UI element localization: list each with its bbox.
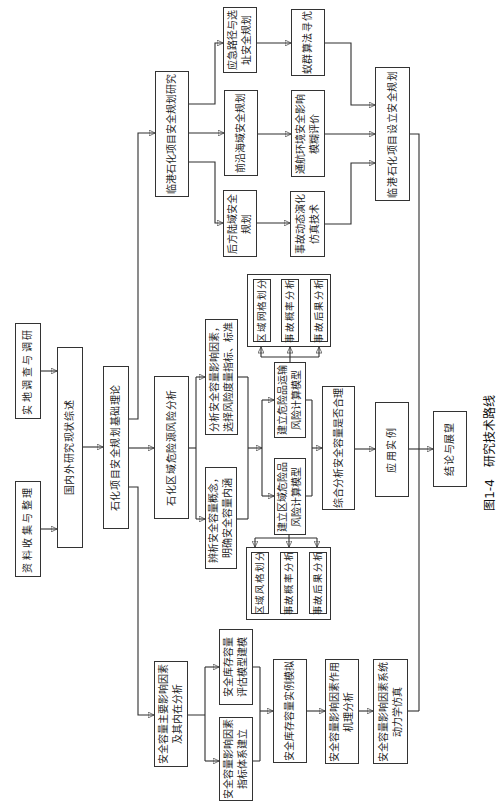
node-inventory-evaluation-model: 安全库存容量 评估模型建模 — [219, 629, 253, 705]
substep-grid-division: 区域网格划分 — [253, 279, 271, 342]
figure-title: 研究技术路线 — [483, 395, 498, 467]
node-inventory-case-simulation: 安全库存容量实例模拟 — [273, 659, 307, 763]
node-label-line: 动力学仿真 — [391, 687, 405, 737]
node-data-collection: 资料收集与整理 — [15, 481, 41, 577]
line-capacity-split — [188, 667, 205, 761]
node-label: 事故概率分析 — [284, 278, 296, 343]
node-basic-theory: 石化项目安全规划基础理论 — [103, 366, 129, 529]
node-label-line: 模糊评价 — [308, 114, 322, 154]
arrow-port-to-rear-land — [189, 162, 223, 223]
node-label: 事故后果分析 — [313, 278, 325, 343]
node-application-case: 应用实例 — [375, 402, 409, 497]
node-label: 区域网格划分 — [256, 278, 268, 343]
node-label-line: 明确安全容量内涵 — [221, 478, 235, 558]
node-port-setup-planning: 临港石化项目设立安全规划 — [375, 67, 410, 201]
node-label: 临港石化项目安全规划研究 — [165, 74, 179, 194]
node-label: 应用实例 — [385, 427, 399, 473]
node-hazard-risk-analysis: 石化区域危险源风险分析 — [154, 376, 189, 519]
node-label-line: 选择风险度量指标、标准 — [222, 322, 236, 432]
node-label-line: 风险计算模型 — [290, 370, 304, 430]
node-label: 前沿海域安全规划 — [234, 93, 248, 173]
node-label-line: 风险计算模型 — [290, 467, 304, 527]
node-label-line: 安全容量影响因素作用 — [328, 662, 342, 762]
figure-number: 图1-4 — [483, 479, 498, 511]
node-label-line: 规划 — [240, 214, 254, 234]
node-label-line: 后方陆域安全 — [226, 194, 240, 254]
node-label: 结论与展望 — [443, 423, 457, 476]
node-label: 国内外研究现状综述 — [63, 400, 77, 495]
group-regional-substeps: 区域风格划分 事故概率分析 事故后果分析 — [246, 547, 331, 620]
node-label: 综合分析安全容量是否合理 — [332, 388, 346, 508]
node-literature-review: 国内外研究现状综述 — [57, 347, 83, 548]
group-transport-substeps: 区域网格划分 事故概率分析 事故后果分析 — [247, 274, 331, 347]
node-label-line: 安全库存容量 — [222, 637, 236, 697]
node-label-line: 安全容量影响因素系统 — [377, 662, 391, 762]
flowchart-research-route: 实地调查与调研 资料收集与整理 国内外研究现状综述 石化项目安全规划基础理论 临… — [0, 0, 503, 808]
arrow-port-to-emergency — [189, 43, 223, 104]
node-field-survey: 实地调查与调研 — [15, 323, 41, 419]
node-system-dynamics-simulation: 安全容量影响因素系统 动力学仿真 — [373, 659, 408, 764]
line-capacity-merge — [253, 667, 260, 761]
node-comprehensive-capacity-analysis: 综合分析安全容量是否合理 — [322, 386, 355, 510]
node-ant-colony-optimization: 蚁群算法寻优 — [291, 9, 325, 76]
substep-accident-probability: 事故概率分析 — [281, 279, 299, 342]
node-label: 临港石化项目设立安全规划 — [386, 70, 400, 197]
line-regional-substeps — [255, 535, 317, 538]
node-capacity-main-factors: 安全容量主要影响因素 及其内在分析 — [154, 661, 188, 767]
substep-accident-consequence: 事故后果分析 — [309, 552, 327, 614]
arrow-theory-to-capacity — [129, 487, 154, 715]
substep-accident-consequence: 事故后果分析 — [310, 279, 328, 342]
node-label-line: 建立区域危险品 — [276, 462, 290, 532]
substep-accident-probability: 事故概率分析 — [280, 552, 298, 614]
node-label-line: 安全容量主要影响因素 — [157, 664, 171, 764]
node-emergency-path-siting: 应急路径与选 址安全规划 — [223, 7, 257, 73]
figure-page: 实地调查与调研 资料收集与整理 国内外研究现状综述 石化项目安全规划基础理论 临… — [0, 0, 503, 808]
node-front-sea-planning: 前沿海域安全规划 — [224, 90, 258, 176]
node-label-line: 及其内在分析 — [171, 684, 185, 744]
node-analyze-capacity-factors: 分析安全容量影响因素， 选择风险度量指标、标准 — [205, 319, 238, 435]
node-label: 事故概率分析 — [283, 551, 295, 616]
arrow-theory-to-port — [129, 133, 155, 419]
node-label: 实地调查与调研 — [21, 327, 35, 415]
node-label: 安全库存容量实例模拟 — [283, 661, 297, 761]
arrow-sim-to-setup — [325, 163, 375, 224]
node-label-line: 机理分析 — [342, 692, 356, 732]
node-transport-risk-model: 建立危险品运输 风险计算模型 — [274, 362, 306, 438]
node-label: 石化项目安全规划基础理论 — [109, 384, 123, 511]
node-label-line: 安全容量影响因素 — [222, 719, 236, 799]
node-factor-mechanism-analysis: 安全容量影响因素作用 机理分析 — [325, 659, 359, 764]
node-label-line: 仿真技术 — [308, 204, 322, 244]
node-label-line: 应急路径与选 — [226, 10, 240, 70]
node-label-line: 事故动态演化 — [294, 194, 308, 254]
node-label-line: 址安全规划 — [240, 15, 254, 65]
node-accident-evolution-simulation: 事故动态演化 仿真技术 — [290, 191, 325, 257]
node-label: 石化区域危险源风险分析 — [165, 389, 179, 506]
node-label-line: 建立危险品运输 — [276, 365, 290, 435]
node-label: 资料收集与整理 — [21, 485, 35, 573]
node-rear-land-planning: 后方陆域安全 规划 — [223, 190, 257, 257]
node-label: 区域风格划分 — [254, 551, 266, 616]
node-regional-risk-model: 建立区域危险品 风险计算模型 — [274, 458, 306, 535]
node-factor-index-system: 安全容量影响因素 指标体系建立 — [219, 717, 253, 801]
node-navigation-fuzzy-evaluation: 通航环境安全影响 模糊评价 — [291, 90, 325, 177]
arrow-ant-to-setup — [325, 43, 375, 105]
node-port-planning-research: 临港石化项目安全规划研究 — [155, 71, 189, 197]
node-label-line: 指标体系建立 — [236, 729, 250, 789]
node-label-line: 辨析安全容量概念， — [207, 473, 221, 563]
node-label: 蚁群算法寻优 — [301, 11, 315, 75]
node-label-line: 评估模型建模 — [236, 637, 250, 697]
trunk-line — [410, 134, 419, 711]
line-models-merge — [306, 400, 312, 496]
figure-caption: 图1-4 研究技术路线 — [482, 388, 498, 518]
node-label-line: 分析安全容量影响因素， — [208, 322, 222, 432]
substep-grid-division: 区域风格划分 — [251, 552, 269, 614]
node-conclusion-outlook: 结论与展望 — [433, 411, 467, 487]
node-define-capacity-concept: 辨析安全容量概念， 明确安全容量内涵 — [205, 467, 237, 569]
node-label: 事故后果分析 — [312, 551, 324, 616]
node-label-line: 通航环境安全影响 — [294, 94, 308, 174]
